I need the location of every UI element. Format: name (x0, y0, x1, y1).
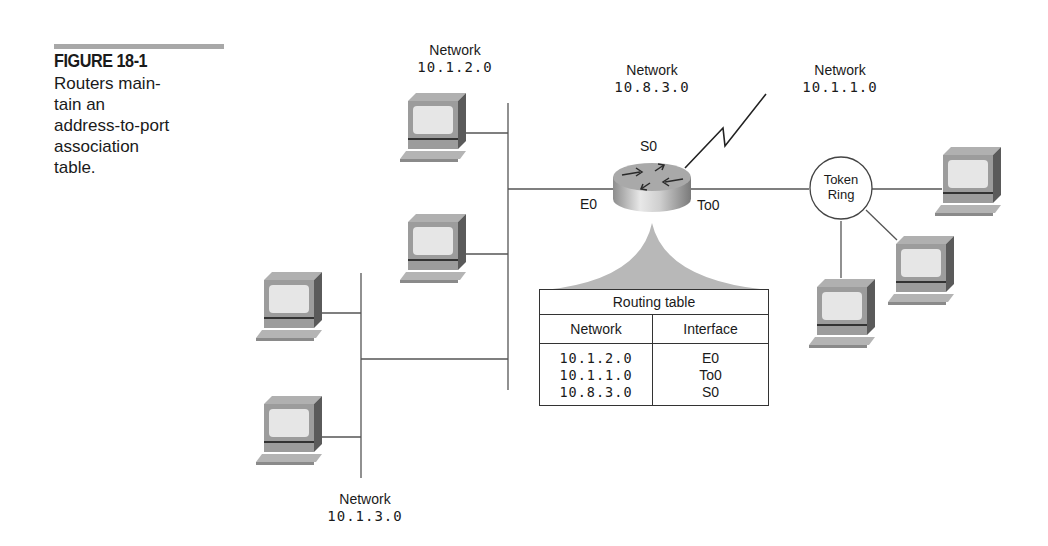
serial-link (685, 94, 766, 168)
network-label-10-1-1-0: Network 10.1.1.0 (790, 62, 890, 96)
port-label-to0: To0 (697, 197, 720, 213)
routing-table-header: Network Interface (540, 315, 768, 344)
network-address: 10.1.1.0 (790, 79, 890, 96)
token-ring-line1: Token (811, 172, 871, 187)
computer-icon (400, 93, 466, 162)
computer-icon (809, 279, 875, 348)
routing-table: Routing table Network Interface 10.1.2.0… (539, 289, 769, 406)
token-ring-line2: Ring (811, 187, 871, 202)
computer-icon (935, 147, 1001, 216)
network-label-10-1-2-0: Network 10.1.2.0 (410, 42, 500, 76)
table-cell-interface: S0 (653, 384, 768, 401)
network-label-10-1-3-0: Network 10.1.3.0 (320, 491, 410, 525)
network-column: 10.1.2.0 10.1.1.0 10.8.3.0 (540, 344, 653, 405)
network-label-text: Network (790, 62, 890, 79)
callout-cone (545, 223, 768, 290)
interface-column: E0 To0 S0 (653, 344, 768, 405)
computer-icon (400, 214, 466, 283)
port-label-s0: S0 (640, 138, 657, 154)
network-label-10-8-3-0: Network 10.8.3.0 (602, 62, 702, 96)
column-header-interface: Interface (653, 315, 768, 343)
network-address: 10.1.2.0 (410, 59, 500, 76)
backbone-10-1-3-0 (320, 273, 508, 478)
computer-icon (888, 236, 954, 305)
network-diagram (0, 0, 1048, 546)
column-header-network: Network (540, 315, 653, 343)
network-address: 10.8.3.0 (602, 79, 702, 96)
table-cell-interface: E0 (653, 350, 768, 367)
network-label-text: Network (602, 62, 702, 79)
network-label-text: Network (410, 42, 500, 59)
computer-icon (256, 396, 322, 465)
router-icon (613, 163, 691, 212)
network-label-text: Network (320, 491, 410, 508)
table-cell-network: 10.1.2.0 (540, 350, 652, 367)
token-ring-label: Token Ring (811, 172, 871, 202)
port-label-e0: E0 (580, 196, 597, 212)
table-cell-interface: To0 (653, 367, 768, 384)
computer-icon (256, 272, 322, 341)
routing-table-body: 10.1.2.0 10.1.1.0 10.8.3.0 E0 To0 S0 (540, 344, 768, 405)
table-cell-network: 10.8.3.0 (540, 384, 652, 401)
network-address: 10.1.3.0 (320, 508, 410, 525)
routing-table-title: Routing table (540, 290, 768, 315)
table-cell-network: 10.1.1.0 (540, 367, 652, 384)
